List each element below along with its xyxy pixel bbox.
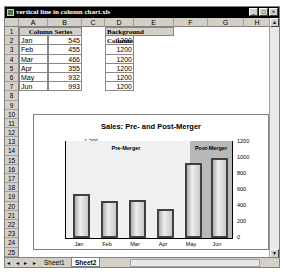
y-tick-right: 600 — [237, 186, 246, 192]
row-header[interactable]: 24 — [5, 238, 19, 247]
spreadsheet-grid[interactable]: A B C D E F G H 1 2 3 4 5 6 7 8 9 10 11 … — [5, 18, 271, 258]
background-value-cell[interactable]: 1200 — [105, 64, 134, 73]
row-header[interactable]: 17 — [5, 174, 19, 183]
pre-merger-label: Pre-Merger — [96, 145, 156, 151]
row-headers: 1 2 3 4 5 6 7 8 9 10 11 12 13 14 15 16 1… — [5, 27, 19, 258]
y-tick-right: 1000 — [237, 154, 249, 160]
background-columns-header[interactable]: Background Columns — [105, 27, 174, 36]
y-tick-right: 400 — [237, 202, 246, 208]
col-header-a[interactable]: A — [19, 18, 48, 27]
maximize-button[interactable]: □ — [259, 8, 268, 16]
close-button[interactable]: × — [269, 8, 278, 16]
row-header[interactable]: 6 — [5, 73, 19, 82]
month-cell[interactable]: Feb — [19, 45, 48, 54]
column-series-header[interactable]: Column Series — [19, 27, 82, 36]
y-tick-right: 0 — [237, 234, 240, 240]
x-label: Jan — [64, 241, 94, 247]
excel-file-icon — [7, 9, 14, 16]
chart-title: Sales: Pre- and Post-Merger — [34, 122, 268, 131]
bar-mar[interactable] — [129, 200, 146, 238]
bar-may[interactable] — [185, 163, 202, 238]
left-axis — [65, 141, 66, 238]
row-header[interactable]: 23 — [5, 229, 19, 238]
col-header-f[interactable]: F — [174, 18, 208, 27]
minimize-button[interactable]: _ — [249, 8, 258, 16]
column-chart[interactable]: Sales: Pre- and Post-Merger 1,200 1,000 … — [33, 114, 269, 250]
row-header[interactable]: 18 — [5, 183, 19, 192]
vertical-scrollbar[interactable]: ▲ ▼ — [269, 18, 279, 258]
col-header-b[interactable]: B — [48, 18, 82, 27]
row-header[interactable]: 15 — [5, 156, 19, 165]
excel-window: vertical line in column chart.xls _ □ × … — [4, 6, 280, 268]
background-value-cell[interactable]: 1200 — [105, 82, 134, 91]
value-cell[interactable]: 545 — [48, 36, 82, 45]
col-header-e[interactable]: E — [134, 18, 174, 27]
y-tick-right: 1200 — [237, 138, 249, 144]
x-label: Mar — [120, 241, 150, 247]
scroll-up-arrow-icon[interactable]: ▲ — [270, 18, 279, 27]
col-header-g[interactable]: G — [208, 18, 244, 27]
y-tick-right: 800 — [237, 170, 246, 176]
row-header[interactable]: 21 — [5, 211, 19, 220]
row-header[interactable]: 4 — [5, 55, 19, 64]
tab-sheet1[interactable]: Sheet1 — [41, 258, 68, 267]
sheet-nav-buttons[interactable]: ◂ ◂ ▸ ▸ — [7, 259, 38, 266]
row-header[interactable]: 5 — [5, 64, 19, 73]
sheet-tab-bar: ◂ ◂ ▸ ▸ Sheet1 Sheet2 — [5, 257, 279, 267]
row-header[interactable]: 9 — [5, 101, 19, 110]
value-cell[interactable]: 466 — [48, 55, 82, 64]
row-header[interactable]: 16 — [5, 165, 19, 174]
value-cell[interactable]: 932 — [48, 73, 82, 82]
window-title: vertical line in column chart.xls — [16, 8, 110, 16]
row-header[interactable]: 14 — [5, 146, 19, 155]
tab-sheet2[interactable]: Sheet2 — [71, 258, 100, 267]
col-header-c[interactable]: C — [82, 18, 105, 27]
month-cell[interactable]: Apr — [19, 64, 48, 73]
bar-jan[interactable] — [73, 194, 90, 238]
row-header[interactable]: 13 — [5, 137, 19, 146]
row-header[interactable]: 19 — [5, 192, 19, 201]
row-header[interactable]: 25 — [5, 248, 19, 257]
row-header[interactable]: 8 — [5, 91, 19, 100]
value-cell[interactable]: 455 — [48, 45, 82, 54]
x-label: Apr — [148, 241, 178, 247]
x-axis — [65, 238, 233, 239]
bar-apr[interactable] — [157, 209, 174, 238]
row-header[interactable]: 1 — [5, 27, 19, 36]
col-header-d[interactable]: D — [105, 18, 134, 27]
column-headers: A B C D E F G H — [5, 18, 271, 27]
x-label: Jun — [202, 241, 232, 247]
x-label: Feb — [92, 241, 122, 247]
row-header[interactable]: 7 — [5, 82, 19, 91]
background-value-cell[interactable]: 1200 — [105, 45, 134, 54]
select-all-corner[interactable] — [5, 18, 19, 27]
y-tick-right: 200 — [237, 218, 246, 224]
bar-feb[interactable] — [101, 201, 118, 238]
row-header[interactable]: 12 — [5, 128, 19, 137]
value-cell[interactable]: 355 — [48, 64, 82, 73]
month-cell[interactable]: Mar — [19, 55, 48, 64]
bar-jun[interactable] — [211, 158, 228, 238]
right-axis — [232, 141, 233, 238]
background-value-cell[interactable]: 1200 — [105, 55, 134, 64]
horizontal-scrollbar[interactable] — [130, 259, 260, 267]
month-cell[interactable]: May — [19, 73, 48, 82]
value-cell[interactable]: 993 — [48, 82, 82, 91]
background-value-cell[interactable]: 1200 — [105, 73, 134, 82]
background-value-cell[interactable]: 1200 — [105, 36, 134, 45]
title-bar: vertical line in column chart.xls _ □ × — [5, 7, 279, 18]
row-header[interactable]: 3 — [5, 45, 19, 54]
row-header[interactable]: 20 — [5, 202, 19, 211]
post-merger-label: Post-Merger — [190, 145, 232, 151]
plot-area[interactable]: Pre-Merger Post-Merger — [66, 141, 232, 238]
month-cell[interactable]: Jun — [19, 82, 48, 91]
month-cell[interactable]: Jan — [19, 36, 48, 45]
row-header[interactable]: 2 — [5, 36, 19, 45]
row-header[interactable]: 22 — [5, 220, 19, 229]
row-header[interactable]: 11 — [5, 119, 19, 128]
row-header[interactable]: 10 — [5, 110, 19, 119]
col-header-h[interactable]: H — [244, 18, 271, 27]
